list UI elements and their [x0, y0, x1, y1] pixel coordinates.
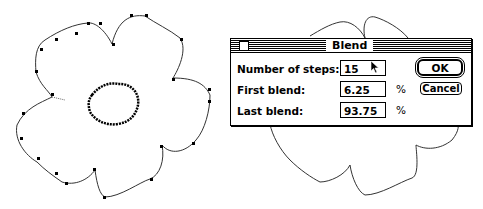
first-blend-input[interactable]: 6.25	[340, 81, 386, 97]
dialog-title: Blend	[326, 39, 373, 52]
mouse-pointer-icon	[370, 60, 380, 74]
first-blend-label: First blend:	[237, 84, 305, 96]
steps-label: Number of steps:	[237, 63, 339, 75]
ok-button[interactable]: OK	[417, 59, 463, 76]
last-blend-input[interactable]: 93.75	[340, 102, 386, 118]
first-blend-unit: %	[396, 83, 406, 95]
left-flower	[17, 16, 210, 197]
cancel-button[interactable]: Cancel	[420, 82, 462, 95]
dialog-titlebar[interactable]: Blend	[231, 39, 471, 53]
blend-dialog: Blend Number of steps: 15 First blend: 6…	[230, 38, 472, 126]
last-blend-label: Last blend:	[237, 105, 303, 117]
close-box-icon[interactable]	[239, 41, 249, 51]
last-blend-unit: %	[396, 104, 406, 116]
